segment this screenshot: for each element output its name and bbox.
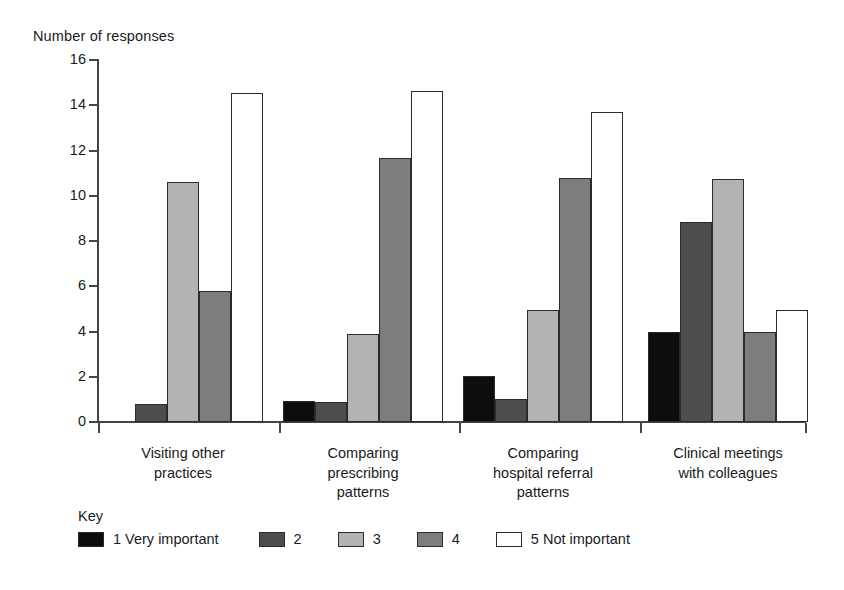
y-tick-label: 6 xyxy=(40,277,86,293)
legend-title: Key xyxy=(78,508,798,524)
bar xyxy=(495,399,527,422)
x-axis-tick xyxy=(805,423,807,433)
bar xyxy=(315,402,347,422)
x-axis-tick xyxy=(279,423,281,433)
bar xyxy=(712,179,744,422)
bar xyxy=(744,332,776,423)
y-axis-tick-labels: 0246810121416 xyxy=(30,0,86,590)
x-axis-tick xyxy=(640,423,642,433)
y-tick-mark xyxy=(89,150,97,152)
y-tick-mark xyxy=(89,376,97,378)
legend-label: 1 Very important xyxy=(113,531,219,547)
bar xyxy=(776,310,808,422)
legend-item[interactable]: 5 Not important xyxy=(496,531,630,547)
y-tick-mark xyxy=(89,331,97,333)
y-tick-mark xyxy=(89,421,97,423)
bar xyxy=(648,332,680,423)
bar xyxy=(379,158,411,422)
y-tick-label: 4 xyxy=(40,323,86,339)
legend-swatch xyxy=(78,532,104,547)
y-tick-label: 14 xyxy=(40,96,86,112)
legend-item[interactable]: 4 xyxy=(417,531,460,547)
bar-group xyxy=(648,60,808,422)
y-tick-label: 2 xyxy=(40,368,86,384)
y-tick-label: 16 xyxy=(40,51,86,67)
bar xyxy=(411,91,443,422)
legend-item[interactable]: 3 xyxy=(338,531,381,547)
legend-label: 3 xyxy=(373,531,381,547)
legend-swatch xyxy=(417,532,443,547)
y-tick-mark xyxy=(89,104,97,106)
bar xyxy=(199,291,231,422)
legend-label: 4 xyxy=(452,531,460,547)
y-tick-mark xyxy=(89,240,97,242)
x-category-label: Comparing hospital referral patterns xyxy=(453,444,633,503)
y-tick-label: 12 xyxy=(40,142,86,158)
x-axis-tick xyxy=(98,423,100,433)
bar xyxy=(591,112,623,422)
y-tick-label: 10 xyxy=(40,187,86,203)
x-category-label: Visiting other practices xyxy=(93,444,273,483)
bar xyxy=(680,222,712,422)
legend-label: 5 Not important xyxy=(531,531,630,547)
bar-group xyxy=(463,60,623,422)
legend-item[interactable]: 1 Very important xyxy=(78,531,219,547)
bar xyxy=(347,334,379,422)
bar xyxy=(231,93,263,422)
y-tick-mark xyxy=(89,59,97,61)
bar xyxy=(283,401,315,422)
bar xyxy=(559,178,591,422)
bar xyxy=(527,310,559,422)
bar-group xyxy=(103,60,263,422)
bar-group xyxy=(283,60,443,422)
bar xyxy=(463,376,495,422)
bar xyxy=(167,182,199,422)
y-tick-label: 0 xyxy=(40,413,86,429)
legend: Key 1 Very important2345 Not important xyxy=(78,508,798,547)
bar-chart-figure: Number of responses 0246810121416 Visiti… xyxy=(0,0,844,590)
legend-swatch xyxy=(338,532,364,547)
legend-swatch xyxy=(259,532,285,547)
x-category-label: Comparing prescribing patterns xyxy=(273,444,453,503)
legend-label: 2 xyxy=(294,531,302,547)
legend-item[interactable]: 2 xyxy=(259,531,302,547)
y-tick-mark xyxy=(89,285,97,287)
legend-items: 1 Very important2345 Not important xyxy=(78,531,798,547)
y-tick-mark xyxy=(89,195,97,197)
x-category-label: Clinical meetings with colleagues xyxy=(638,444,818,483)
bar xyxy=(135,404,167,422)
legend-swatch xyxy=(496,532,522,547)
y-tick-label: 8 xyxy=(40,232,86,248)
plot-area xyxy=(98,60,805,422)
x-axis-tick xyxy=(459,423,461,433)
